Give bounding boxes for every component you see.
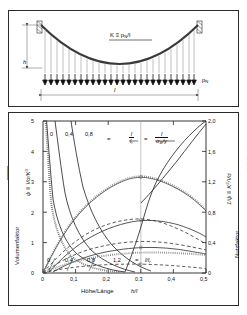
inline-frac2-tail: /γ — [162, 138, 167, 144]
param-label-top-04: 0,4 — [65, 131, 73, 137]
param-label-top-0: 0 — [50, 131, 53, 137]
top-axis-ticks — [76, 121, 174, 125]
bottom-note-numerator: l — [145, 257, 146, 263]
x-tick-0: 0 — [41, 276, 44, 282]
param-label-bottom-04: 0,4 — [65, 257, 73, 263]
right-axis-title: Nutzfaktor — [234, 231, 240, 258]
inline-frac1-denominator: lr — [129, 137, 134, 145]
right-axis-symbol-tail: /Vσ — [226, 173, 232, 182]
inline-frac1-den-sub: r — [131, 140, 132, 145]
bottom-note-equals: = — [135, 257, 139, 263]
parabolic-cable-curve — [41, 25, 198, 64]
x-tick-03: 0,3 — [135, 276, 143, 282]
left-axis-symbol-text: ψ ≡ Vσ/K — [25, 172, 31, 197]
param-label-bottom-12: 1,2 — [113, 257, 121, 263]
right-tick-20: 2,0 — [208, 118, 216, 124]
right-support-icon — [197, 21, 202, 33]
param-label-bottom-08: 0,8 — [87, 257, 95, 263]
right-axis-dashed-legend-dash: – – – — [243, 156, 247, 172]
left-axis-solid-legend-dash: —— — [3, 166, 10, 180]
cable-diagram-panel: h l K ≡ pN/l pN — [8, 10, 239, 107]
x-axis-symbol: h/l — [131, 288, 137, 294]
right-tick-08: 0,8 — [208, 210, 216, 216]
x-tick-04: 0,4 — [168, 276, 176, 282]
curve-psi-llr-08 — [71, 121, 151, 271]
inline-formula-equals: = — [107, 136, 111, 142]
inline-formula-fraction-2: l σB/γ — [155, 131, 168, 145]
inline-frac2-denominator: σB/γ — [155, 137, 168, 145]
span-dimension — [41, 89, 198, 101]
formula-main: K ≡ p — [110, 32, 124, 38]
right-tick-16: 1,6 — [208, 149, 216, 155]
left-tick-0: 0 — [31, 270, 34, 276]
left-axis-title: Volumenfaktor — [14, 227, 20, 265]
left-tick-3: 3 — [31, 179, 34, 185]
right-axis-symbol: 1/ψ ≡ K3/Vσ — [225, 173, 232, 205]
curve-psi-llr-0-dotted — [46, 121, 119, 272]
figure-page: h l K ≡ pN/l pN — [0, 0, 247, 315]
left-axis-symbol: ψ ≡ Vσ/K3 — [24, 169, 31, 196]
cable-formula: K ≡ pN/l — [110, 32, 130, 39]
x-axis-title: Höhe/Länge — [81, 288, 114, 294]
cable-diagram-svg — [9, 11, 237, 105]
left-axis-symbol-exponent: 3 — [24, 169, 29, 171]
left-tick-2: 2 — [31, 210, 34, 216]
span-label: l — [114, 87, 115, 93]
inline-formula-fraction-1: l lr — [129, 131, 134, 145]
curve-psi-right-branch — [141, 124, 206, 203]
right-axis-symbol-exponent: 3 — [225, 182, 230, 184]
x-tick-05: 0,5 — [200, 276, 208, 282]
load-label: pN — [202, 77, 208, 84]
left-tick-4: 4 — [31, 149, 34, 155]
x-tick-02: 0,2 — [103, 276, 111, 282]
param-label-bottom-0: 0 — [47, 257, 50, 263]
left-axis-ticks — [43, 121, 47, 273]
height-label: h — [23, 59, 26, 65]
chart-panel: 5 4 3 2 1 0 2,0 1,6 1,2 0,8 0,4 0 0 0,1 … — [8, 112, 239, 306]
param-label-top-08: 0,8 — [85, 131, 93, 137]
formula-tail: /l — [127, 32, 130, 38]
right-tick-04: 0,4 — [208, 240, 216, 246]
right-tick-0: 0 — [208, 270, 211, 276]
load-label-subscript: N — [205, 79, 208, 84]
bottom-note-fraction: l/lr — [145, 257, 151, 264]
left-support-icon — [37, 21, 42, 33]
bottom-note-den-sub: r — [149, 259, 150, 264]
inline-formula-equals-2: = — [144, 136, 148, 142]
left-tick-5: 5 — [31, 118, 34, 124]
left-tick-1: 1 — [31, 240, 34, 246]
right-axis-symbol-text: 1/ψ ≡ K — [226, 185, 232, 205]
distributed-load-arrows — [43, 74, 197, 85]
x-tick-01: 0,1 — [70, 276, 78, 282]
right-tick-12: 1,2 — [208, 179, 216, 185]
